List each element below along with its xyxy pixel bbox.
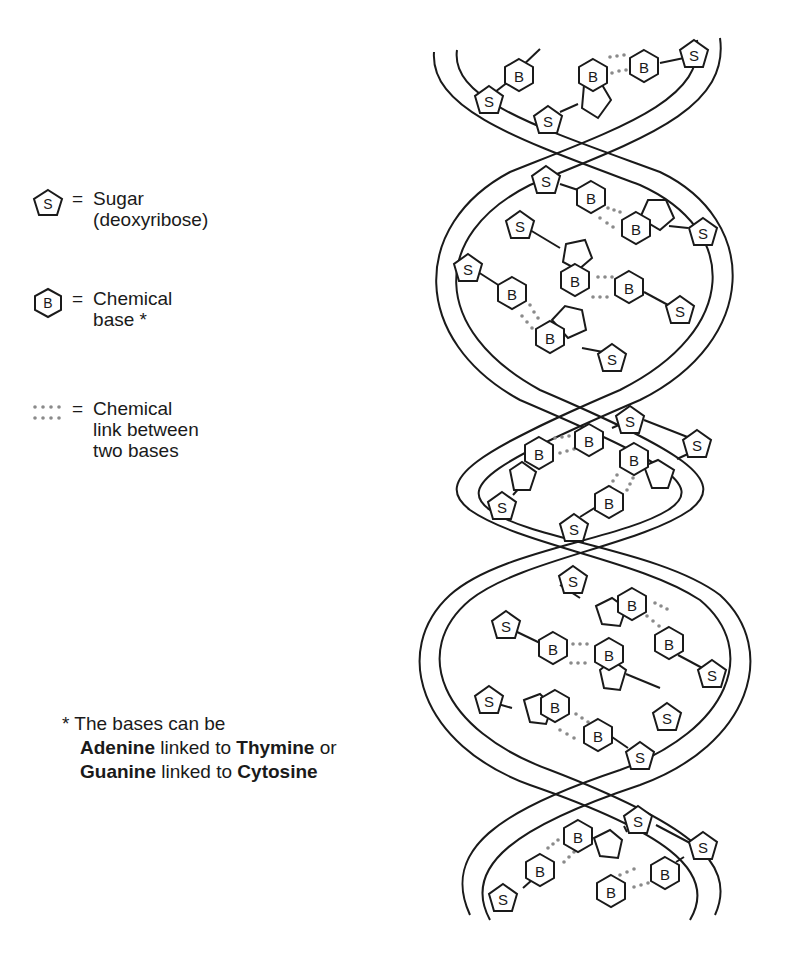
svg-text:B: B xyxy=(593,728,603,745)
sugar-pentagon-icon: S xyxy=(492,611,520,638)
svg-text:S: S xyxy=(698,839,708,856)
sugar-pentagon-icon: S xyxy=(532,166,560,193)
svg-text:S: S xyxy=(515,218,525,235)
svg-text:S: S xyxy=(635,749,645,766)
sugar-pentagon-icon: S xyxy=(666,296,694,323)
svg-text:S: S xyxy=(698,225,708,242)
svg-text:B: B xyxy=(514,68,524,85)
svg-text:B: B xyxy=(586,190,596,207)
sugar-pentagon-icon: S xyxy=(653,703,681,730)
svg-text:B: B xyxy=(548,641,558,658)
svg-text:B: B xyxy=(534,446,544,463)
svg-text:S: S xyxy=(541,173,551,190)
link xyxy=(520,303,540,330)
sugar-pentagon-icon: S xyxy=(598,344,626,371)
sugar-pentagon-icon: S xyxy=(680,40,708,67)
link xyxy=(608,53,628,75)
svg-text:S: S xyxy=(689,47,699,64)
base-hexagon-icon: B xyxy=(630,50,658,82)
base-hexagon-icon: B xyxy=(655,627,683,659)
svg-text:S: S xyxy=(625,413,635,430)
svg-text:S: S xyxy=(662,710,672,727)
sugar-pentagon-icon: S xyxy=(698,660,726,687)
sugar-pentagon-icon: S xyxy=(454,254,482,281)
base-hexagon-icon: B xyxy=(615,271,643,303)
svg-text:B: B xyxy=(660,866,670,883)
base-hexagon-icon: B xyxy=(651,857,679,889)
svg-text:S: S xyxy=(675,303,685,320)
svg-text:B: B xyxy=(545,330,555,347)
svg-text:S: S xyxy=(463,261,473,278)
svg-text:S: S xyxy=(501,618,511,635)
link xyxy=(591,275,614,299)
base-hexagon-icon: B xyxy=(618,588,646,620)
base-hexagon-icon: B xyxy=(505,59,533,91)
svg-text:S: S xyxy=(484,693,494,710)
svg-text:B: B xyxy=(629,452,639,469)
sugar-pentagon-icon: S xyxy=(560,514,588,541)
svg-text:B: B xyxy=(573,829,583,846)
svg-text:B: B xyxy=(604,495,614,512)
svg-text:S: S xyxy=(543,113,553,130)
link xyxy=(645,601,669,628)
svg-text:S: S xyxy=(498,891,508,908)
svg-text:B: B xyxy=(604,647,614,664)
base-hexagon-icon: B xyxy=(539,632,567,664)
base-hexagon-icon: B xyxy=(579,59,607,91)
base-hexagon-icon: B xyxy=(526,854,554,886)
link xyxy=(553,434,576,455)
base-hexagon-icon: B xyxy=(595,638,623,670)
svg-text:B: B xyxy=(535,863,545,880)
base-hexagon-icon: B xyxy=(525,437,553,469)
sugar-pentagon-icon: S xyxy=(506,211,534,238)
base-hexagon-icon: B xyxy=(597,875,625,907)
base-hexagon-icon: B xyxy=(498,277,526,309)
svg-text:B: B xyxy=(507,286,517,303)
base-hexagon-icon: B xyxy=(541,690,569,722)
svg-text:S: S xyxy=(692,437,702,454)
sugar-pentagon-icon: S xyxy=(689,832,717,859)
sugar-pentagon-icon: S xyxy=(475,686,503,713)
svg-text:B: B xyxy=(584,433,594,450)
sugar-pentagon-icon: S xyxy=(488,492,516,519)
svg-text:B: B xyxy=(664,636,674,653)
svg-text:S: S xyxy=(607,351,617,368)
sugar-pentagon-icon: S xyxy=(616,406,644,433)
base-hexagon-icon: B xyxy=(577,181,605,213)
base-hexagon-icon: B xyxy=(564,820,592,852)
base-hexagon-icon: B xyxy=(622,212,650,244)
sugar-pentagon-icon: S xyxy=(534,106,562,133)
dna-double-helix-diagram: S S S S S S S S S S S S S S S S S S S S … xyxy=(0,0,786,964)
svg-text:B: B xyxy=(606,884,616,901)
svg-text:S: S xyxy=(633,813,643,830)
sugar-pentagon-icon: S xyxy=(626,742,654,769)
base-hexagon-icon: B xyxy=(584,719,612,751)
link xyxy=(598,206,622,229)
svg-text:B: B xyxy=(570,273,580,290)
svg-text:B: B xyxy=(627,597,637,614)
sugar-pentagon-icon: S xyxy=(489,884,517,911)
helix-backbone-strands xyxy=(420,38,751,920)
base-hexagon-icon: B xyxy=(561,264,589,296)
base-hexagon-icon: B xyxy=(620,443,648,475)
svg-text:B: B xyxy=(624,280,634,297)
base-hexagon-icon: B xyxy=(575,424,603,456)
sugar-pentagon-icon: S xyxy=(559,566,587,593)
svg-text:B: B xyxy=(631,221,641,238)
base-hexagon-icon: B xyxy=(595,486,623,518)
svg-text:S: S xyxy=(497,499,507,516)
base-hexagon-icon: B xyxy=(536,321,564,353)
svg-text:B: B xyxy=(639,59,649,76)
svg-text:B: B xyxy=(588,68,598,85)
svg-text:S: S xyxy=(569,521,579,538)
sugar-pentagon-icon: S xyxy=(624,806,652,833)
link xyxy=(569,642,589,665)
svg-text:B: B xyxy=(550,699,560,716)
svg-text:S: S xyxy=(484,93,494,110)
svg-text:S: S xyxy=(707,667,717,684)
sugar-pentagon-icon: S xyxy=(683,430,711,457)
sugar-pentagon-icon: S xyxy=(689,218,717,245)
svg-text:S: S xyxy=(568,573,578,590)
